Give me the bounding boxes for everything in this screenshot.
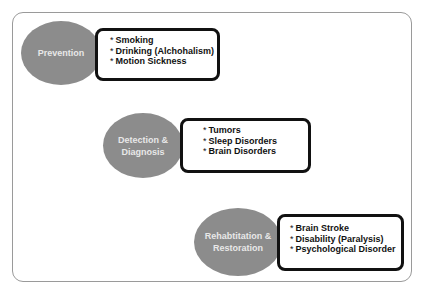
stage-box-detection: *Tumors *Sleep Disorders *Brain Disorder… (180, 118, 311, 173)
stage-ellipse-detection: Detection & Diagnosis (103, 113, 183, 178)
list-item: *Sleep Disorders (203, 136, 308, 147)
item-text: Motion Sickness (116, 56, 187, 66)
list-item: *Drinking (Alchohalism) (110, 46, 217, 57)
bullet-icon: * (110, 35, 114, 45)
stage-label: Rehabtitation & Restoration (198, 230, 278, 254)
bullet-icon: * (203, 136, 207, 146)
item-text: Sleep Disorders (209, 136, 278, 146)
item-text: Drinking (Alchohalism) (116, 46, 215, 56)
stage-ellipse-prevention: Prevention (21, 21, 101, 85)
bullet-icon: * (203, 125, 207, 135)
list-item: *Disability (Paralysis) (290, 234, 401, 245)
list-item: *Tumors (203, 125, 308, 136)
item-text: Psychological Disorder (296, 244, 396, 254)
item-text: Brain Stroke (296, 223, 350, 233)
list-item: *Brain Disorders (203, 146, 308, 157)
bullet-icon: * (290, 234, 294, 244)
stage-ellipse-rehabilitation: Rehabtitation & Restoration (194, 208, 282, 276)
stage-box-prevention: *Smoking *Drinking (Alchohalism) *Motion… (95, 28, 220, 81)
list-item: *Psychological Disorder (290, 244, 401, 255)
bullet-icon: * (203, 146, 207, 156)
item-text: Smoking (116, 35, 154, 45)
item-text: Disability (Paralysis) (296, 234, 384, 244)
stage-label: Prevention (38, 47, 85, 59)
list-item: *Smoking (110, 35, 217, 46)
list-item: *Brain Stroke (290, 223, 401, 234)
stage-label: Detection & Diagnosis (109, 134, 177, 158)
bullet-icon: * (290, 223, 294, 233)
bullet-icon: * (110, 46, 114, 56)
item-text: Brain Disorders (209, 146, 277, 156)
stage-box-rehabilitation: *Brain Stroke *Disability (Paralysis) *P… (277, 214, 404, 271)
bullet-icon: * (110, 56, 114, 66)
item-text: Tumors (209, 125, 241, 135)
bullet-icon: * (290, 244, 294, 254)
list-item: *Motion Sickness (110, 56, 217, 67)
